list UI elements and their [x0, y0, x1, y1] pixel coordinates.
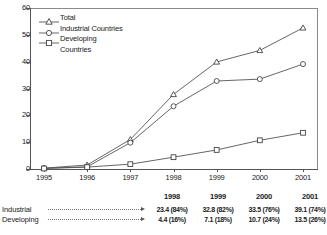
- table-connector-line: [48, 219, 141, 221]
- chart-legend: Total Industrial Countries: [38, 13, 123, 55]
- summary-table: 1998199920002001 Industrial23.4 (84%)32.…: [0, 190, 327, 235]
- legend-item-total: Total: [38, 13, 123, 24]
- data-point: [300, 25, 306, 30]
- line-chart: 6050403020100 19951996199719981999200020…: [0, 0, 327, 190]
- data-point: [128, 162, 133, 167]
- data-point: [257, 48, 263, 53]
- table-cell: 33.5 (76%): [241, 205, 287, 214]
- data-point: [171, 104, 176, 109]
- table-year-2001: 2001: [287, 192, 327, 201]
- table-cell: 13.5 (26%): [287, 215, 327, 224]
- arrow-right-icon: [141, 207, 145, 211]
- table-cell: 23.4 (84%): [149, 205, 195, 214]
- circle-marker-icon: [38, 24, 60, 34]
- data-point: [214, 78, 219, 83]
- table-cell: 4.4 (16%): [149, 215, 195, 224]
- table-cell: 10.7 (24%): [241, 215, 287, 224]
- table-year-2000: 2000: [241, 192, 287, 201]
- data-point: [301, 130, 306, 135]
- table-row-label-developing: Developing: [2, 215, 39, 224]
- data-point: [171, 92, 177, 97]
- table-cell: 7.1 (18%): [195, 215, 241, 224]
- legend-item-industrial: Industrial Countries: [38, 24, 123, 35]
- data-point: [128, 140, 133, 145]
- arrow-right-icon: [141, 217, 145, 221]
- series-industrial-countries: [42, 62, 306, 171]
- table-year-1999: 1999: [195, 192, 241, 201]
- data-point: [85, 165, 90, 170]
- data-point: [214, 148, 219, 153]
- series-developing-countries: [42, 130, 306, 170]
- table-cell: 39.1 (74%): [287, 205, 327, 214]
- data-point: [257, 77, 262, 82]
- data-point: [257, 138, 262, 143]
- series-line: [44, 64, 303, 168]
- series-line: [44, 133, 303, 169]
- legend-label-total: Total: [60, 13, 75, 23]
- data-point: [171, 155, 176, 160]
- triangle-marker-icon: [38, 13, 60, 23]
- legend-item-developing: Developing: [38, 34, 123, 45]
- legend-label-developing: Developing: [60, 34, 97, 44]
- table-year-1998: 1998: [149, 192, 195, 201]
- legend-label-industrial: Industrial Countries: [60, 24, 123, 34]
- table-cell: 32.8 (82%): [195, 205, 241, 214]
- table-row-label-industrial: Industrial: [2, 205, 31, 214]
- table-connector-line: [48, 209, 141, 211]
- square-marker-icon: [38, 34, 60, 44]
- chart-screenshot: 6050403020100 19951996199719981999200020…: [0, 0, 327, 235]
- data-point: [301, 62, 306, 67]
- data-point: [42, 166, 47, 171]
